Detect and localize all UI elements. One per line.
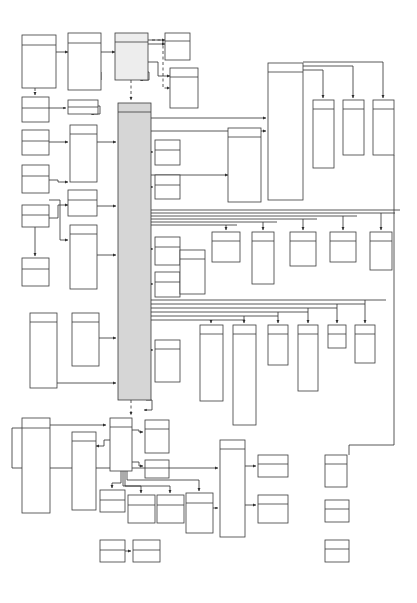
diagram-node[interactable] xyxy=(72,313,99,366)
node-body[interactable] xyxy=(68,33,101,90)
node-body[interactable] xyxy=(325,540,349,562)
node-body[interactable] xyxy=(212,232,240,262)
node-body[interactable] xyxy=(115,33,148,80)
node-body[interactable] xyxy=(233,325,256,425)
diagram-node[interactable] xyxy=(373,100,394,155)
diagram-node[interactable] xyxy=(165,33,190,60)
diagram-node[interactable] xyxy=(22,205,49,227)
diagram-node[interactable] xyxy=(68,33,101,90)
node-body[interactable] xyxy=(313,100,334,168)
node-body[interactable] xyxy=(373,100,394,155)
node-body[interactable] xyxy=(155,340,180,382)
node-body[interactable] xyxy=(155,272,180,297)
diagram-node[interactable] xyxy=(186,493,213,533)
diagram-node[interactable] xyxy=(72,432,96,510)
diagram-node[interactable] xyxy=(155,272,180,297)
node-body[interactable] xyxy=(268,325,288,365)
node-body[interactable] xyxy=(110,418,132,471)
node-body[interactable] xyxy=(72,432,96,510)
node-body[interactable] xyxy=(22,205,49,227)
node-body[interactable] xyxy=(155,175,180,199)
diagram-node[interactable] xyxy=(330,232,356,262)
diagram-node[interactable] xyxy=(258,495,288,523)
diagram-node[interactable] xyxy=(22,35,56,88)
node-body[interactable] xyxy=(325,500,349,522)
diagram-node[interactable] xyxy=(100,490,125,512)
node-body[interactable] xyxy=(170,68,198,108)
diagram-node[interactable] xyxy=(68,190,97,216)
diagram-node[interactable] xyxy=(228,128,261,202)
diagram-node[interactable] xyxy=(118,103,151,400)
diagram-node[interactable] xyxy=(268,63,303,200)
node-body[interactable] xyxy=(22,97,49,122)
diagram-node[interactable] xyxy=(325,455,347,487)
diagram-node[interactable] xyxy=(212,232,240,262)
diagram-node[interactable] xyxy=(22,418,50,513)
diagram-node[interactable] xyxy=(115,33,148,80)
diagram-node[interactable] xyxy=(325,500,349,522)
node-body[interactable] xyxy=(200,325,223,401)
node-body[interactable] xyxy=(290,232,316,266)
node-body[interactable] xyxy=(128,495,155,523)
node-body[interactable] xyxy=(70,125,97,182)
node-body[interactable] xyxy=(157,495,184,523)
node-body[interactable] xyxy=(328,325,346,348)
node-body[interactable] xyxy=(343,100,364,155)
node-body[interactable] xyxy=(22,418,50,513)
diagram-node[interactable] xyxy=(200,325,223,401)
diagram-node[interactable] xyxy=(22,258,49,286)
node-body[interactable] xyxy=(30,313,57,388)
diagram-node[interactable] xyxy=(22,130,49,155)
diagram-node[interactable] xyxy=(155,340,180,382)
diagram-node[interactable] xyxy=(70,125,97,182)
node-body[interactable] xyxy=(268,63,303,200)
node-body[interactable] xyxy=(145,420,169,453)
diagram-node[interactable] xyxy=(290,232,316,266)
node-body[interactable] xyxy=(258,455,288,477)
diagram-node[interactable] xyxy=(22,165,49,193)
node-body[interactable] xyxy=(72,313,99,366)
node-body[interactable] xyxy=(330,232,356,262)
diagram-node[interactable] xyxy=(370,232,392,270)
node-body[interactable] xyxy=(355,325,375,363)
diagram-node[interactable] xyxy=(70,225,97,289)
node-body[interactable] xyxy=(252,232,274,284)
diagram-node[interactable] xyxy=(68,100,98,114)
diagram-node[interactable] xyxy=(155,237,180,265)
diagram-node[interactable] xyxy=(155,175,180,199)
diagram-node[interactable] xyxy=(313,100,334,168)
diagram-node[interactable] xyxy=(328,325,346,348)
diagram-node[interactable] xyxy=(180,250,205,294)
node-body[interactable] xyxy=(100,540,125,562)
diagram-node[interactable] xyxy=(145,420,169,453)
node-body[interactable] xyxy=(165,33,190,60)
node-body[interactable] xyxy=(145,460,169,478)
diagram-node[interactable] xyxy=(258,455,288,477)
diagram-node[interactable] xyxy=(145,460,169,478)
node-body[interactable] xyxy=(118,103,151,400)
node-body[interactable] xyxy=(155,140,180,165)
diagram-node[interactable] xyxy=(22,97,49,122)
node-body[interactable] xyxy=(258,495,288,523)
node-body[interactable] xyxy=(180,250,205,294)
diagram-node[interactable] xyxy=(133,540,160,562)
node-body[interactable] xyxy=(100,490,125,512)
diagram-node[interactable] xyxy=(355,325,375,363)
node-body[interactable] xyxy=(298,325,318,391)
node-body[interactable] xyxy=(22,35,56,88)
node-body[interactable] xyxy=(325,455,347,487)
diagram-node[interactable] xyxy=(233,325,256,425)
diagram-node[interactable] xyxy=(268,325,288,365)
diagram-node[interactable] xyxy=(220,440,245,537)
diagram-node[interactable] xyxy=(128,495,155,523)
node-body[interactable] xyxy=(155,237,180,265)
node-body[interactable] xyxy=(220,440,245,537)
node-body[interactable] xyxy=(133,540,160,562)
diagram-node[interactable] xyxy=(343,100,364,155)
node-body[interactable] xyxy=(70,225,97,289)
diagram-node[interactable] xyxy=(325,540,349,562)
diagram-node[interactable] xyxy=(110,418,132,471)
diagram-node[interactable] xyxy=(170,68,198,108)
node-body[interactable] xyxy=(22,130,49,155)
diagram-node[interactable] xyxy=(298,325,318,391)
